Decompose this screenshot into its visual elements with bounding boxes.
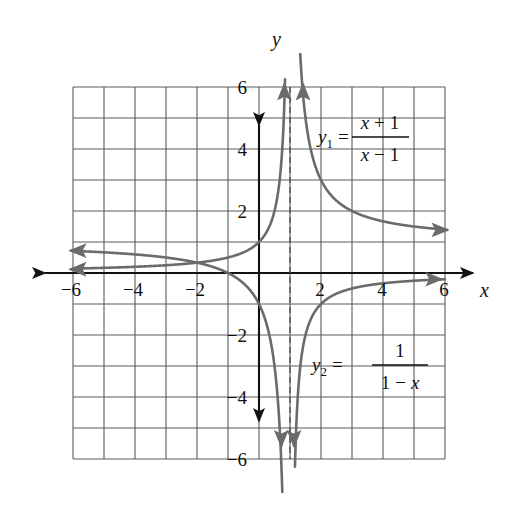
- x-tick-label: −2: [185, 279, 205, 300]
- y-tick-label: −6: [227, 449, 247, 470]
- x-tick-label: 2: [315, 279, 325, 300]
- y-tick-label: 4: [238, 139, 248, 160]
- eq2-lhs-var: y: [310, 354, 321, 375]
- x-axis-label: x: [479, 279, 489, 301]
- eq2-lhs-sub: 2: [320, 364, 327, 379]
- eq1-lhs-var: y: [316, 126, 327, 147]
- eq2-numerator: 1: [395, 340, 405, 361]
- equation-y1-annotation: y1= x+1 x−1: [316, 112, 409, 165]
- graph-figure: −6−4−2246642−2−4−6 x y y1= x+1 x−1 y2= 1: [0, 0, 516, 523]
- y-tick-label: 6: [238, 77, 248, 98]
- eq1-denominator: x−1: [360, 144, 400, 165]
- eq2-denominator: 1−x: [381, 372, 420, 393]
- x-tick-label: 6: [439, 279, 449, 300]
- eq1-equals: =: [338, 126, 349, 147]
- y-tick-label: −2: [227, 325, 247, 346]
- x-tick-label: −6: [61, 279, 81, 300]
- x-tick-label: −4: [123, 279, 144, 300]
- coordinate-plane-svg: −6−4−2246642−2−4−6 x y y1= x+1 x−1 y2= 1: [0, 0, 516, 523]
- eq1-numerator: x+1: [360, 112, 400, 133]
- curve-branch: [73, 79, 285, 268]
- eq2-equals: =: [332, 354, 343, 375]
- eq1-lhs-sub: 1: [326, 136, 333, 151]
- eq2-lhs: y2=: [310, 354, 343, 379]
- y-axis-label: y: [270, 28, 281, 51]
- y-tick-label: 2: [238, 201, 248, 222]
- y-tick-label: −4: [227, 387, 248, 408]
- x-tick-label: 4: [377, 279, 387, 300]
- axes: [45, 125, 473, 421]
